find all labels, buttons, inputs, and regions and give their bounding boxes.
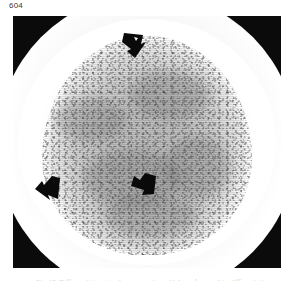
ct-lesion-patch: [130, 71, 209, 119]
ct-lesion-patch: [55, 98, 126, 142]
arrow-superior-icon: [121, 31, 147, 59]
figure-caption-text: Fig. 18. Diffuse white matter low attenu…: [36, 278, 266, 286]
arrow-left-lateral-icon: [34, 175, 62, 201]
figure-head-ct: [13, 16, 281, 268]
ct-lesion-patch: [105, 194, 197, 238]
page-number: 604: [9, 1, 23, 10]
arrow-central-icon: [129, 171, 157, 197]
figure-caption: Fig. 18. Diffuse white matter low attenu…: [36, 278, 266, 286]
ct-lesion-patch: [164, 137, 231, 198]
ct-film-frame: [13, 16, 281, 268]
